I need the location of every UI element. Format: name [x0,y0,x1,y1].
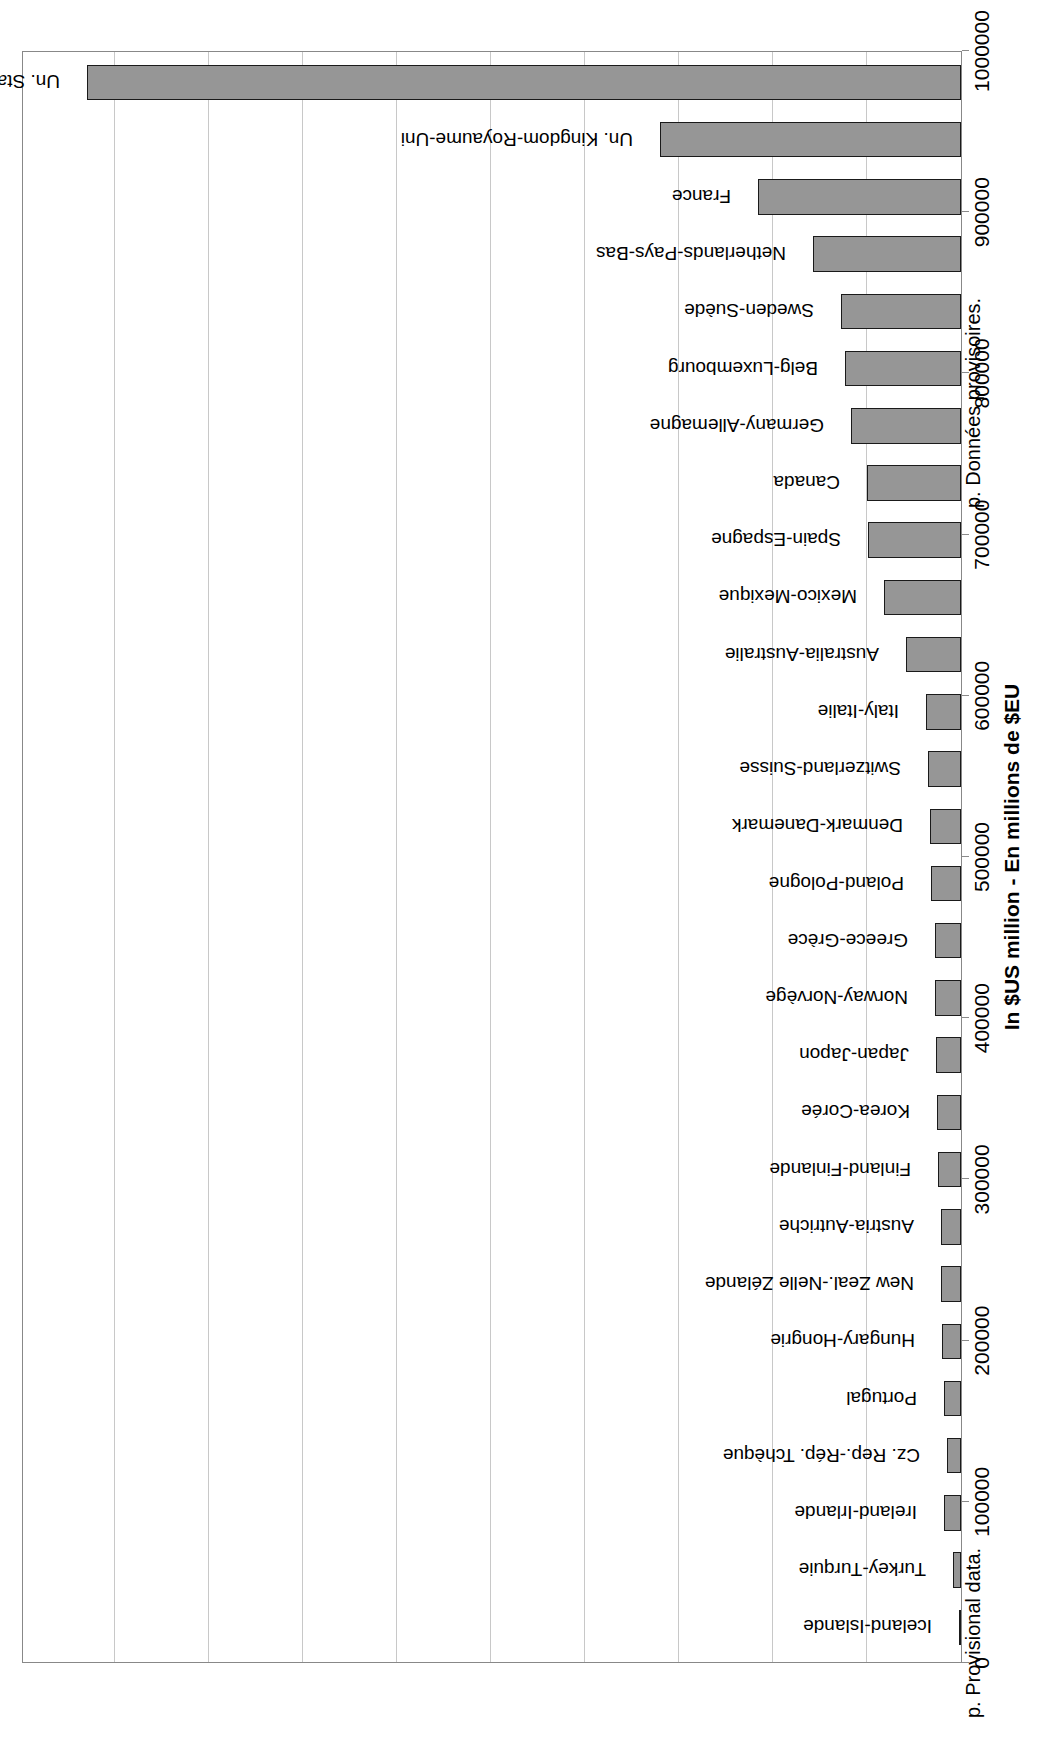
bar-slot: Finland-Finlande [23,1141,961,1198]
bar[interactable] [936,1037,961,1072]
bar[interactable] [884,580,961,615]
bar-slot: Australia-Australie [23,626,961,683]
bar-category-label: Finland-Finlande [769,1160,911,1179]
bar[interactable] [931,866,961,901]
bar-category-label: Mexico-Mexique [719,587,857,606]
bar-category-label: Netherlands-Pays-Bas [596,244,786,263]
bar[interactable] [758,179,961,214]
footnote-french: p. Données provisoires. [962,298,985,508]
axis-tick-mark [962,695,969,696]
bar[interactable] [941,1209,961,1244]
axis-tick-label: 500000 [970,822,994,892]
axis-tick-label: 300000 [970,1144,994,1214]
axis-tick-label: 400000 [970,983,994,1053]
bar-category-label: Spain-Espagne [711,530,841,549]
bar-category-label: Canada [773,473,840,492]
bar-slot: Japan-Japon [23,1027,961,1084]
bar-slot: Germany-Allemagne [23,397,961,454]
bar-category-label: Japan-Japon [799,1045,909,1064]
bar-slot: Norway-Norvège [23,969,961,1026]
bar[interactable] [87,65,961,100]
bar-category-label: Hungary-Hongrie [770,1331,915,1350]
bar-category-label: New Zeal.-Nelle Zélande [705,1274,914,1293]
bar-category-label: Greece-Grèce [787,931,907,950]
bar[interactable] [935,980,961,1015]
bar[interactable] [938,1152,961,1187]
bar[interactable] [930,809,961,844]
axis-tick-mark [962,211,969,212]
bar[interactable] [868,523,961,558]
bar[interactable] [944,1495,961,1530]
bar-slot: Iceland-Islande [23,1599,961,1656]
bar-slot: Italy-Italie [23,683,961,740]
bar-slot: Denmark-Danemark [23,798,961,855]
bar[interactable] [813,236,961,271]
bar-category-label: Portugal [846,1389,917,1408]
bar-slot: Poland-Pologne [23,855,961,912]
bar[interactable] [928,751,961,786]
bar[interactable] [841,294,961,329]
bar-category-label: Ireland-Irlande [794,1503,917,1522]
bar-category-label: Iceland-Islande [803,1617,932,1636]
bar[interactable] [953,1552,961,1587]
bar-category-label: Belg-Luxembourg [668,359,818,378]
axis-tick-mark [962,534,969,535]
axis-tick-mark [962,50,969,51]
bar-category-label: Turkey-Turquie [799,1560,926,1579]
axis-tick-label: 700000 [970,500,994,570]
bar[interactable] [959,1610,961,1645]
bar-category-label: Norway-Norvège [766,988,909,1007]
bar-slot: Cz. Rep.-Rép. Tchèque [23,1427,961,1484]
bar-category-label: Un. States-Etats-Unis [0,72,60,91]
bar-slot: Un. States-Etats-Unis [23,54,961,111]
bar-slot: Canada [23,454,961,511]
bar-category-label: Sweden-Suède [684,301,814,320]
bar-slot: Korea-Corée [23,1084,961,1141]
bar-slot: Belg-Luxembourg [23,340,961,397]
bar-category-label: Korea-Corée [801,1102,910,1121]
axis-tick-label: 900000 [970,177,994,247]
bar[interactable] [845,351,961,386]
value-axis-title: In $US million - En millions de $EU [1000,51,1024,1663]
bar[interactable] [660,122,961,157]
bar-category-label: Poland-Pologne [769,874,904,893]
bar[interactable] [935,923,961,958]
bar-slot: Austria-Autriche [23,1198,961,1255]
footnote-english: p. Provisional data. [962,1548,985,1718]
bar-category-label: Australia-Australie [725,645,879,664]
axis-tick-label: 1000000 [970,10,994,92]
axis-tick-mark [962,1340,969,1341]
bars-container: Iceland-IslandeTurkey-TurquieIreland-Irl… [23,52,961,1662]
bar[interactable] [947,1438,961,1473]
bar-slot: Mexico-Mexique [23,569,961,626]
axis-tick-label: 600000 [970,661,994,731]
bar-category-label: Austria-Autriche [779,1217,914,1236]
bar-slot: France [23,168,961,225]
bar-category-label: Germany-Allemagne [650,416,824,435]
bar-slot: Switzerland-Suisse [23,741,961,798]
bar-slot: Portugal [23,1370,961,1427]
axis-tick-mark [962,1017,969,1018]
bar-slot: Greece-Grèce [23,912,961,969]
bar-category-label: Denmark-Danemark [732,816,903,835]
bar[interactable] [926,694,961,729]
bar-slot: Ireland-Irlande [23,1484,961,1541]
bar[interactable] [851,408,961,443]
bar-slot: Hungary-Hongrie [23,1313,961,1370]
plot-area: Iceland-IslandeTurkey-TurquieIreland-Irl… [22,51,962,1663]
bar[interactable] [906,637,961,672]
bar[interactable] [867,465,961,500]
axis-tick-mark [962,1501,969,1502]
axis-tick-label: 200000 [970,1306,994,1376]
bar-slot: Netherlands-Pays-Bas [23,226,961,283]
axis-tick-mark [962,856,969,857]
axis-tick-mark [962,1178,969,1179]
bar-category-label: Switzerland-Suisse [740,759,902,778]
bar[interactable] [937,1095,961,1130]
bar-category-label: France [672,187,731,206]
bar-slot: Turkey-Turquie [23,1542,961,1599]
bar-slot: Sweden-Suède [23,283,961,340]
bar[interactable] [942,1324,961,1359]
bar[interactable] [941,1266,961,1301]
bar[interactable] [944,1381,961,1416]
